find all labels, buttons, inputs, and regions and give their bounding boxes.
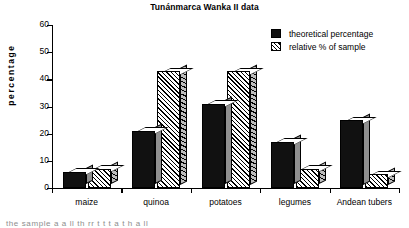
legend-swatch-hatch bbox=[271, 42, 281, 51]
bar-side-face bbox=[250, 64, 257, 184]
legend-swatch-solid bbox=[271, 29, 281, 38]
chart-title: Tunánmarca Wanka II data bbox=[0, 2, 409, 12]
y-tick-label: 0 bbox=[44, 182, 49, 192]
y-tick-label: 30 bbox=[40, 101, 49, 111]
x-axis-category-label: quinoa bbox=[143, 197, 169, 207]
y-tick-label: 10 bbox=[40, 155, 49, 165]
bar-front-face bbox=[132, 131, 155, 188]
y-tick-label: 20 bbox=[40, 128, 49, 138]
legend-entry: theoretical percentage bbox=[271, 27, 409, 40]
bar-front-face bbox=[340, 120, 363, 188]
bar bbox=[271, 142, 294, 188]
x-tick-mark bbox=[121, 188, 122, 193]
y-axis-label: percentage bbox=[6, 30, 16, 120]
legend-entry: relative % of sample bbox=[271, 40, 409, 53]
x-tick-mark bbox=[52, 188, 53, 193]
bar-front-face bbox=[202, 104, 225, 188]
legend-label: theoretical percentage bbox=[289, 29, 373, 39]
bar bbox=[63, 172, 86, 188]
x-axis-line bbox=[52, 188, 399, 189]
bar-front-face bbox=[63, 172, 86, 188]
y-tick-label: 60 bbox=[40, 19, 49, 29]
x-tick-mark bbox=[260, 188, 261, 193]
x-axis-category-label: Andean tubers bbox=[337, 197, 392, 207]
caption-cutoff-text: the sample a a ll th rr t t t a t h a ll bbox=[0, 219, 409, 228]
bar-side-face bbox=[363, 113, 370, 184]
chart-legend: theoretical percentagerelative % of samp… bbox=[271, 27, 409, 53]
x-tick-mark bbox=[191, 188, 192, 193]
bar bbox=[132, 131, 155, 188]
bar-chart: Tunánmarca Wanka II data percentage 0102… bbox=[0, 0, 409, 228]
y-tick-label: 50 bbox=[40, 46, 49, 56]
bar bbox=[340, 120, 363, 188]
bar-side-face bbox=[225, 97, 232, 185]
x-axis-category-label: maize bbox=[75, 197, 98, 207]
caption-cutoff: the sample a a ll th rr t t t a t h a ll bbox=[0, 219, 409, 228]
x-tick-mark bbox=[399, 188, 400, 193]
x-tick-mark bbox=[330, 188, 331, 193]
legend-label: relative % of sample bbox=[289, 42, 366, 52]
bar bbox=[202, 104, 225, 188]
y-tick-label: 40 bbox=[40, 73, 49, 83]
x-axis-category-label: potatoes bbox=[209, 197, 242, 207]
y-axis-line bbox=[52, 25, 53, 188]
x-axis-category-label: legumes bbox=[279, 197, 311, 207]
bar-front-face bbox=[271, 142, 294, 188]
bar-side-face bbox=[180, 64, 187, 184]
